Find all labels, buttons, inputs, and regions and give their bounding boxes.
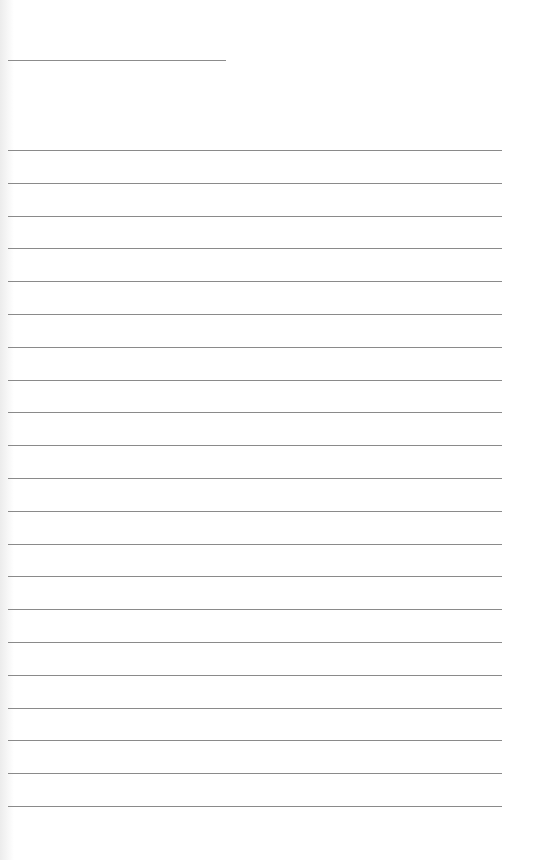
ruled-line <box>8 412 502 413</box>
ruled-line <box>8 675 502 676</box>
ruled-line <box>8 380 502 381</box>
ruled-line <box>8 347 502 348</box>
ruled-line <box>8 216 502 217</box>
ruled-line <box>8 576 502 577</box>
ruled-line <box>8 150 502 151</box>
ruled-line <box>8 773 502 774</box>
ruled-line <box>8 445 502 446</box>
ruled-line <box>8 183 502 184</box>
ruled-line <box>8 740 502 741</box>
ruled-line <box>8 642 502 643</box>
header-rule <box>8 60 226 61</box>
ruled-line <box>8 511 502 512</box>
ruled-line <box>8 609 502 610</box>
ruled-line <box>8 708 502 709</box>
ruled-line <box>8 314 502 315</box>
ruled-line <box>8 478 502 479</box>
page-edge-shadow <box>0 0 14 860</box>
ruled-line <box>8 544 502 545</box>
ruled-line <box>8 806 502 807</box>
ruled-line <box>8 281 502 282</box>
ruled-line <box>8 248 502 249</box>
